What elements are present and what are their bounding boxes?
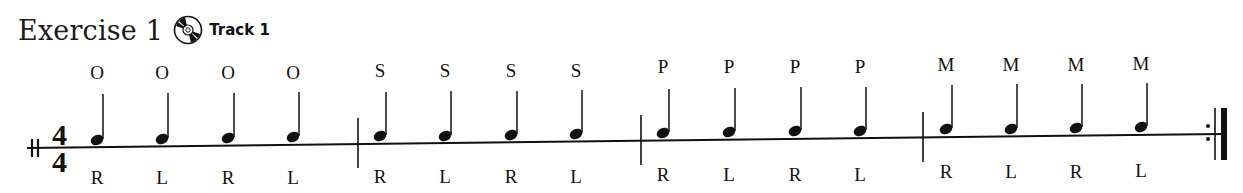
note: M R (938, 54, 955, 182)
sticking-label: L (156, 167, 168, 188)
sticking-label: L (1005, 161, 1017, 182)
measure-4: M R M L M R M L (938, 53, 1150, 182)
note-label-above: M (938, 54, 955, 75)
note: O R (89, 62, 105, 188)
rhythm-staff: 4 4 O R O L O R O (0, 0, 1243, 193)
note: P R (655, 56, 671, 185)
sticking-label: L (439, 166, 451, 187)
note: P L (852, 56, 868, 185)
note: P L (721, 56, 737, 185)
note-label-above: S (440, 60, 451, 81)
sticking-label: L (1135, 160, 1147, 181)
measure-1: O R O L O R O L (89, 62, 301, 188)
sticking-label: R (91, 167, 104, 188)
sticking-label: L (287, 167, 299, 188)
note-label-above: M (1003, 54, 1020, 75)
note-label-above: M (1068, 54, 1085, 75)
note: S R (372, 60, 388, 187)
sticking-label: R (505, 166, 518, 187)
note: O L (285, 62, 301, 188)
note-label-above: O (286, 62, 300, 83)
note: S L (568, 60, 584, 187)
time-signature-bottom: 4 (52, 145, 67, 178)
sticking-label: R (374, 166, 387, 187)
note: O L (154, 62, 170, 188)
sticking-label: R (789, 164, 802, 185)
sticking-label: R (1070, 161, 1083, 182)
note-label-above: M (1133, 53, 1150, 74)
note: M R (1068, 54, 1085, 182)
sticking-label: L (854, 164, 866, 185)
note: M L (1003, 54, 1020, 182)
note: S L (437, 60, 453, 187)
measure-2: S R S L S R S L (372, 60, 584, 187)
time-signature: 4 4 (52, 118, 67, 178)
note-label-above: S (375, 60, 386, 81)
note-label-above: P (724, 56, 735, 77)
staff-line (27, 134, 1222, 148)
sticking-label: R (657, 164, 670, 185)
note-label-above: P (790, 56, 801, 77)
sticking-label: L (570, 166, 582, 187)
note-label-above: P (855, 56, 866, 77)
sticking-label: R (222, 167, 235, 188)
note-label-above: O (90, 62, 104, 83)
sticking-label: L (723, 164, 735, 185)
note: P R (787, 56, 803, 185)
note: S R (503, 60, 519, 187)
note: O R (220, 62, 236, 188)
sticking-label: R (940, 161, 953, 182)
note-label-above: S (571, 60, 582, 81)
measure-3: P R P L P R P L (655, 56, 868, 185)
note-label-above: O (155, 62, 169, 83)
note: M L (1133, 53, 1150, 181)
note-label-above: O (221, 62, 235, 83)
note-label-above: P (658, 56, 669, 77)
note-label-above: S (506, 60, 517, 81)
